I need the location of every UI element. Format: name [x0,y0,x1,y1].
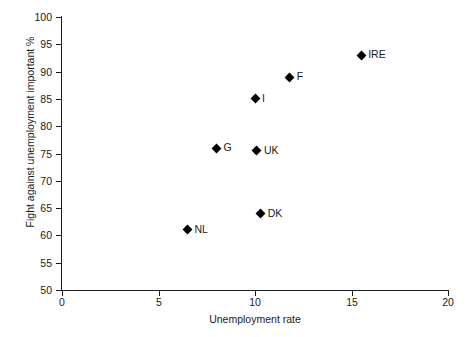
data-point-label: I [262,93,265,104]
diamond-marker-icon [285,72,295,82]
diamond-marker-icon [182,225,192,235]
x-tick-label: 20 [428,297,468,308]
y-tick-mark [56,263,61,264]
x-tick-label: 10 [235,297,275,308]
x-tick-label: 0 [42,297,82,308]
y-tick-mark [56,17,61,18]
diamond-marker-icon [252,146,262,156]
plot-area: NLGIUKDKFIRE [62,17,448,290]
data-point-label: G [223,142,231,153]
y-tick-mark [56,181,61,182]
data-point-label: DK [268,208,283,219]
scatter-chart: 50556065707580859095100 05101520 Fight a… [0,0,468,337]
data-point-label: UK [264,145,279,156]
y-tick-label: 50 [10,285,52,296]
diamond-marker-icon [256,209,266,219]
y-tick-mark [56,235,61,236]
y-tick-mark [56,72,61,73]
diamond-marker-icon [250,94,260,104]
diamond-marker-icon [211,143,221,153]
x-axis-title: Unemployment rate [62,313,448,325]
y-tick-label: 55 [10,258,52,269]
y-axis-title: Fight against unemployment important % [24,12,36,252]
y-tick-mark [56,126,61,127]
y-tick-mark [56,290,61,291]
data-point-label: IRE [368,49,386,60]
y-tick-mark [56,99,61,100]
y-tick-mark [56,208,61,209]
y-tick-mark [56,44,61,45]
x-tick-label: 5 [139,297,179,308]
diamond-marker-icon [356,50,366,60]
y-tick-mark [56,154,61,155]
data-point-label: F [297,71,303,82]
x-tick-label: 15 [332,297,372,308]
data-point-label: NL [194,224,207,235]
